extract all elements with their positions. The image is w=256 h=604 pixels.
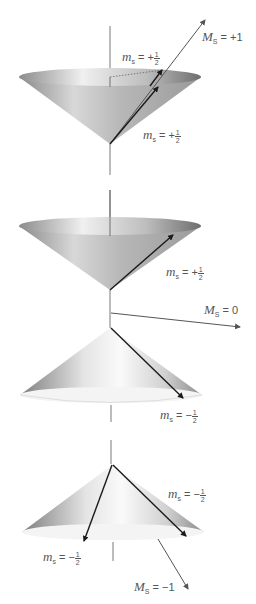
label-total-ms-plus1: MS = +1 bbox=[202, 30, 243, 43]
label-spin-up: ms = +12 bbox=[166, 265, 204, 281]
panel-ms-minus-1 bbox=[22, 440, 204, 589]
spin-vector-diagram bbox=[0, 0, 256, 604]
label-total-ms-0: MS = 0 bbox=[204, 303, 238, 316]
cone-lower-body bbox=[20, 328, 202, 395]
label-total-ms-minus1: MS = −1 bbox=[134, 580, 175, 593]
label-spin-right: ms = −12 bbox=[168, 487, 206, 503]
label-spin-upper: ms = +12 bbox=[122, 50, 160, 66]
label-spin-left: ms = −12 bbox=[43, 550, 81, 566]
label-spin-lower: ms = +12 bbox=[143, 128, 181, 144]
label-spin-down: ms = −12 bbox=[160, 408, 198, 424]
panel-ms-0 bbox=[19, 160, 240, 422]
